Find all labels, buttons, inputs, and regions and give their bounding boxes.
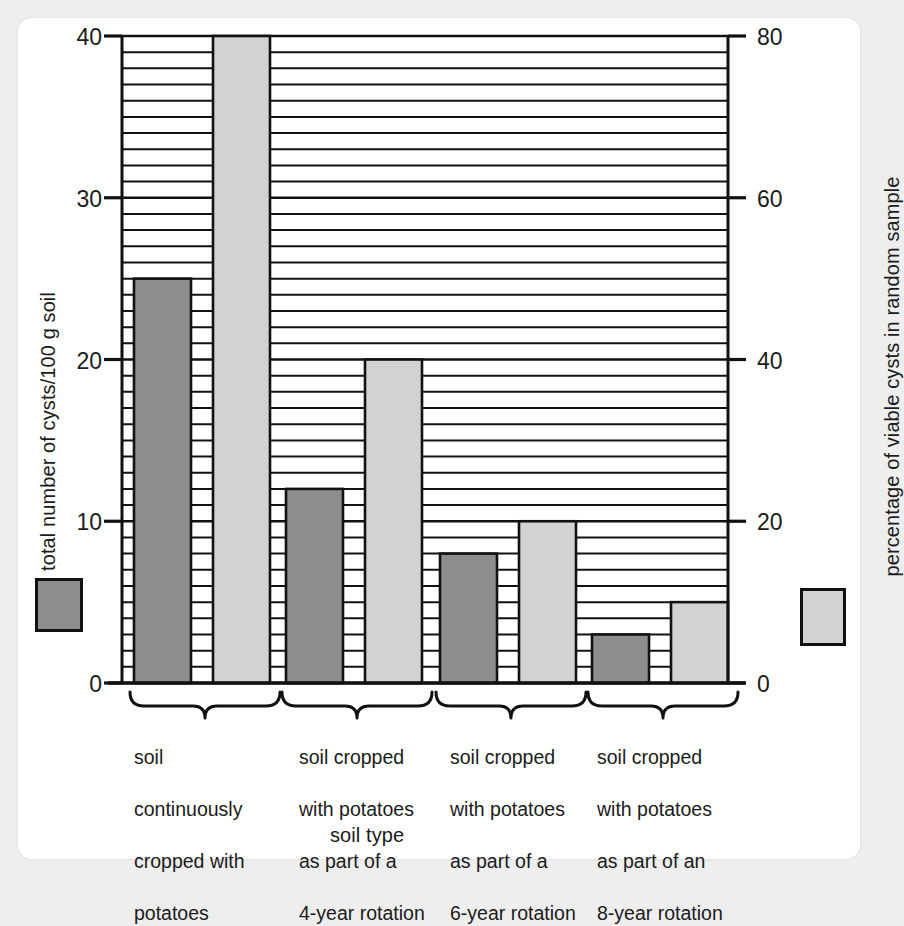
- category-label-4-line3: as part of an: [597, 850, 705, 872]
- bar-light-4: [671, 602, 728, 683]
- category-label-4-line1: soil cropped: [597, 746, 702, 768]
- category-label-2-line4: 4-year rotation: [299, 902, 425, 924]
- category-label-4-line2: with potatoes: [597, 798, 712, 820]
- y-right-tick-80: 80: [757, 26, 817, 49]
- category-label-1: soil continuously cropped with potatoes: [134, 718, 245, 926]
- category-label-4: soil cropped with potatoes as part of an…: [597, 718, 723, 926]
- y-right-tick-40: 40: [757, 350, 817, 373]
- category-label-3-line3: as part of a: [450, 850, 548, 872]
- bar-dark-4: [592, 634, 649, 683]
- category-label-2-line2: with potatoes: [299, 798, 414, 820]
- y-left-tick-0: 0: [42, 673, 102, 696]
- category-brace-1: [130, 692, 280, 718]
- category-braces: [130, 692, 738, 718]
- legend-swatch-viable-percentage: [800, 588, 846, 646]
- category-label-1-line2: continuously: [134, 798, 242, 820]
- y-right-tick-20: 20: [757, 511, 817, 534]
- bar-dark-3: [440, 554, 497, 683]
- category-brace-4: [588, 692, 738, 718]
- legend-swatch-total-cysts: [35, 578, 83, 632]
- y-left-tick-20: 20: [42, 350, 102, 373]
- bar-light-1: [213, 36, 270, 683]
- y-left-tick-40: 40: [42, 26, 102, 49]
- category-label-1-line4: potatoes: [134, 902, 209, 924]
- category-brace-3: [436, 692, 586, 718]
- category-label-1-line3: cropped with: [134, 850, 245, 872]
- category-label-3: soil cropped with potatoes as part of a …: [450, 718, 576, 926]
- category-label-3-line2: with potatoes: [450, 798, 565, 820]
- bar-light-3: [519, 521, 576, 683]
- category-label-3-line1: soil cropped: [450, 746, 555, 768]
- y-right-tick-60: 60: [757, 188, 817, 211]
- bar-dark-2: [286, 489, 343, 683]
- bar-light-2: [365, 360, 422, 684]
- category-label-2-line3: as part of a: [299, 850, 397, 872]
- bar-dark-1: [134, 279, 191, 683]
- category-label-1-line1: soil: [134, 746, 163, 768]
- y-axis-left-title: total number of cysts/100 g soil: [37, 272, 60, 592]
- y-right-tick-0: 0: [757, 673, 817, 696]
- category-label-4-line4: 8-year rotation: [597, 902, 723, 924]
- y-left-tick-30: 30: [42, 188, 102, 211]
- y-left-tick-10: 10: [42, 511, 102, 534]
- y-axis-right-title: percentage of viable cysts in random sam…: [881, 157, 904, 597]
- category-label-3-line4: 6-year rotation: [450, 902, 576, 924]
- category-brace-2: [282, 692, 432, 718]
- category-label-2-line1: soil cropped: [299, 746, 404, 768]
- category-label-2: soil cropped with potatoes as part of a …: [299, 718, 425, 926]
